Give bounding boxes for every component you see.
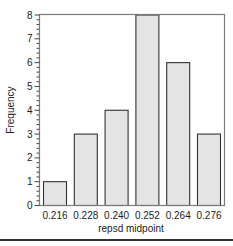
bars-group (44, 15, 221, 206)
x-axis: 0.2160.2280.2400.2520.2640.276 (42, 210, 221, 221)
y-axis: 012345678 (27, 10, 40, 212)
x-tick-label: 0.276 (196, 210, 221, 221)
x-tick-label: 0.252 (135, 210, 160, 221)
bottom-divider (0, 239, 233, 241)
y-tick-label: 8 (27, 10, 33, 21)
y-tick-label: 7 (27, 33, 33, 44)
y-tick-label: 3 (27, 129, 33, 140)
y-tick-label: 4 (27, 105, 33, 116)
y-tick-label: 2 (27, 152, 33, 163)
x-tick-label: 0.216 (42, 210, 67, 221)
y-tick-label: 0 (27, 200, 33, 211)
bar-0.228 (74, 134, 97, 205)
y-tick-label: 6 (27, 57, 33, 68)
bar-0.240 (105, 110, 128, 205)
bar-0.252 (136, 15, 159, 206)
x-tick-label: 0.240 (104, 210, 129, 221)
y-tick-label: 1 (27, 176, 33, 187)
bar-0.264 (167, 63, 190, 206)
y-axis-label: Frequency (5, 86, 16, 133)
histogram-chart: 012345678 0.2160.2280.2400.2520.2640.276… (0, 0, 233, 246)
x-tick-label: 0.228 (73, 210, 98, 221)
plot-frame (40, 15, 225, 206)
y-tick-label: 5 (27, 81, 33, 92)
bar-0.216 (44, 182, 67, 206)
x-axis-label: repsd midpoint (98, 223, 164, 234)
x-tick-label: 0.264 (166, 210, 191, 221)
bar-0.276 (198, 134, 221, 205)
